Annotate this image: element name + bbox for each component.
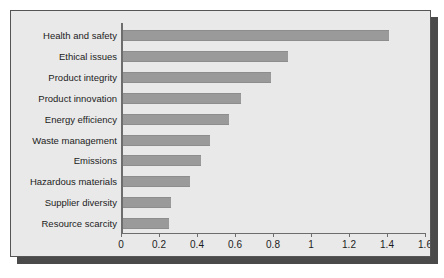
- x-tick-mark: [349, 233, 350, 237]
- x-tick-mark: [273, 233, 274, 237]
- bar-category-label-wrap: Hazardous materials: [11, 171, 117, 192]
- bar: [123, 197, 171, 208]
- bar-row: Waste management: [11, 130, 430, 151]
- x-tick-mark: [159, 233, 160, 237]
- bar-row: Supplier diversity: [11, 192, 430, 213]
- bar-row: Hazardous materials: [11, 171, 430, 192]
- x-tick-label: 0.6: [215, 239, 255, 250]
- chart-panel: Health and safetyEthical issuesProduct i…: [10, 10, 431, 257]
- bar-category-label: Product innovation: [12, 88, 117, 109]
- bar: [123, 51, 288, 62]
- x-tick-label: 0.4: [177, 239, 217, 250]
- bar: [123, 114, 229, 125]
- x-tick-label: 0.2: [139, 239, 179, 250]
- bar-category-label: Emissions: [12, 150, 117, 171]
- bar-category-label: Hazardous materials: [12, 171, 117, 192]
- x-tick-label: 1.6: [405, 239, 431, 250]
- x-tick-mark: [121, 233, 122, 237]
- plot-area: Health and safetyEthical issuesProduct i…: [11, 11, 430, 256]
- bar-category-label-wrap: Health and safety: [11, 25, 117, 46]
- bar-row: Product innovation: [11, 88, 430, 109]
- x-tick-mark: [387, 233, 388, 237]
- bar-row: Emissions: [11, 150, 430, 171]
- bar: [123, 135, 210, 146]
- bar-row: Product integrity: [11, 67, 430, 88]
- bar: [123, 218, 169, 229]
- bar-category-label: Waste management: [12, 130, 117, 151]
- bar-category-label-wrap: Supplier diversity: [11, 192, 117, 213]
- x-tick-mark: [197, 233, 198, 237]
- bar: [123, 93, 241, 104]
- x-tick-label: 1: [291, 239, 331, 250]
- bar-row: Energy efficiency: [11, 109, 430, 130]
- x-tick-mark: [425, 233, 426, 237]
- bar-category-label: Resource scarcity: [12, 213, 117, 234]
- bar-category-label: Product integrity: [12, 67, 117, 88]
- x-tick-label: 0: [101, 239, 141, 250]
- x-tick-label: 1.2: [329, 239, 369, 250]
- bar-row: Resource scarcity: [11, 213, 430, 234]
- bar-category-label-wrap: Energy efficiency: [11, 109, 117, 130]
- x-tick-mark: [311, 233, 312, 237]
- bar-category-label-wrap: Ethical issues: [11, 46, 117, 67]
- bar-row: Ethical issues: [11, 46, 430, 67]
- bar-chart-figure: Health and safetyEthical issuesProduct i…: [0, 0, 444, 278]
- bar: [123, 30, 389, 41]
- bar: [123, 176, 190, 187]
- bar-category-label-wrap: Waste management: [11, 130, 117, 151]
- x-tick-label: 1.4: [367, 239, 407, 250]
- bar-category-label: Ethical issues: [12, 46, 117, 67]
- bar-category-label-wrap: Resource scarcity: [11, 213, 117, 234]
- bar-category-label-wrap: Emissions: [11, 150, 117, 171]
- bar-category-label: Supplier diversity: [12, 192, 117, 213]
- bar: [123, 155, 201, 166]
- bar-category-label: Health and safety: [12, 25, 117, 46]
- bar-category-label: Energy efficiency: [12, 109, 117, 130]
- bar-row: Health and safety: [11, 25, 430, 46]
- x-tick-label: 0.8: [253, 239, 293, 250]
- bar-category-label-wrap: Product innovation: [11, 88, 117, 109]
- x-tick-mark: [235, 233, 236, 237]
- bar-category-label-wrap: Product integrity: [11, 67, 117, 88]
- bar: [123, 72, 271, 83]
